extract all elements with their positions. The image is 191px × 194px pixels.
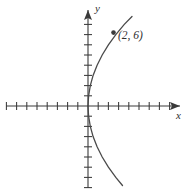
graph-canvas xyxy=(0,0,191,194)
coordinate-plane-figure: y x (2, 6) xyxy=(0,0,191,194)
x-axis-label: x xyxy=(176,110,181,121)
parabola-lower-branch xyxy=(88,106,123,186)
y-axis-label: y xyxy=(95,3,100,14)
parabola-curve-group xyxy=(88,17,132,186)
point-marker-2-6 xyxy=(111,30,116,35)
point-coordinate-label: (2, 6) xyxy=(118,30,143,42)
x-axis-group xyxy=(6,102,180,110)
